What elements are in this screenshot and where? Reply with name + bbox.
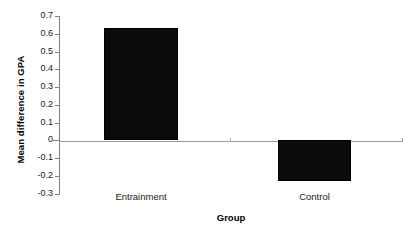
- x-axis-label-entrainment: Entrainment: [81, 191, 201, 202]
- y-axis-tick-label: 0: [25, 135, 53, 144]
- y-axis-tick-label: 0.7: [25, 11, 53, 20]
- y-axis-tick: [55, 69, 60, 70]
- y-axis-tick-label: 0.2: [25, 100, 53, 109]
- y-axis-tick-label: -0.2: [25, 171, 53, 180]
- y-axis-tick: [55, 123, 60, 124]
- bar-chart: Mean difference in GPA 0.70.60.50.40.30.…: [0, 0, 413, 234]
- y-axis-tick: [55, 87, 60, 88]
- y-axis-tick: [55, 105, 60, 106]
- y-axis-tick-label: -0.3: [25, 189, 53, 198]
- y-axis-tick-label: 0.1: [25, 118, 53, 127]
- bar-entrainment: [104, 28, 178, 140]
- y-axis-tick: [55, 34, 60, 35]
- baseline-mid-tick: [230, 138, 231, 142]
- y-axis-tick: [55, 16, 60, 17]
- y-axis-tick: [55, 176, 60, 177]
- bar-control: [278, 140, 351, 181]
- zero-baseline: [59, 141, 403, 142]
- y-axis-tick-label: 0.3: [25, 82, 53, 91]
- y-axis-tick-label: 0.4: [25, 64, 53, 73]
- y-axis-title: Mean difference in GPA: [15, 20, 26, 200]
- y-axis-tick-label: -0.1: [25, 153, 53, 162]
- y-axis-tick: [55, 158, 60, 159]
- y-axis-tick: [55, 194, 60, 195]
- y-axis-tick-label: 0.5: [25, 47, 53, 56]
- y-axis-tick: [55, 52, 60, 53]
- x-axis-label-control: Control: [255, 191, 375, 202]
- y-axis-tick-label: 0.6: [25, 29, 53, 38]
- x-axis-title: Group: [59, 212, 403, 223]
- baseline-end-tick: [402, 138, 403, 142]
